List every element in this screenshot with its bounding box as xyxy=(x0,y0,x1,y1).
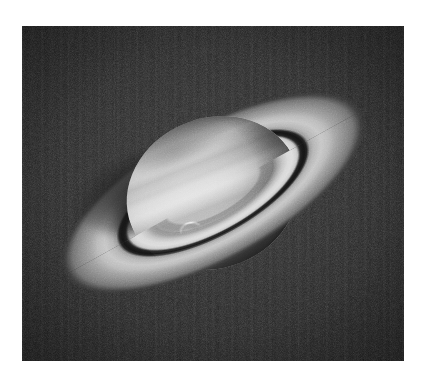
saturn-photograph xyxy=(22,26,404,361)
saturn-system xyxy=(22,26,404,361)
page-canvas xyxy=(0,0,424,383)
